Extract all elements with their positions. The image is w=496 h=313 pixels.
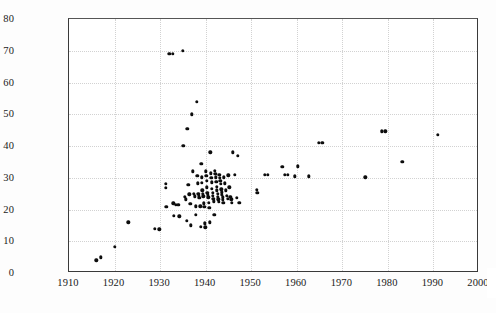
y-tick-label: 70: [0, 44, 14, 55]
data-point: [171, 52, 174, 55]
data-point: [186, 127, 189, 130]
data-point: [95, 259, 98, 262]
data-point: [178, 215, 181, 218]
data-point: [230, 201, 233, 204]
data-point: [185, 219, 188, 222]
data-point: [187, 183, 190, 186]
data-point: [199, 225, 202, 228]
data-point: [212, 200, 215, 203]
data-point: [383, 130, 386, 133]
y-tick-label: 40: [0, 140, 14, 151]
data-point: [194, 213, 197, 216]
data-point: [235, 196, 238, 199]
y-tick-label: 50: [0, 108, 14, 119]
data-point: [181, 49, 184, 52]
data-point: [228, 186, 231, 189]
gridline-horizontal: [69, 146, 477, 147]
plot-area: [69, 19, 477, 271]
y-tick-label: 20: [0, 203, 14, 214]
data-point: [188, 202, 191, 205]
data-point: [193, 194, 196, 197]
data-point: [296, 165, 299, 168]
data-point: [196, 182, 199, 185]
data-point: [217, 200, 220, 203]
scatter-chart-figure: MPH (on roads) 01020304050607080 1910192…: [0, 0, 496, 313]
gridline-vertical: [160, 19, 161, 271]
gridline-horizontal: [69, 114, 477, 115]
data-point: [223, 182, 226, 185]
data-point: [177, 203, 180, 206]
data-point: [210, 187, 213, 190]
data-point: [191, 170, 194, 173]
data-point: [213, 213, 216, 216]
x-tick-label: 1980: [365, 277, 409, 288]
gridline-horizontal: [69, 83, 477, 84]
y-tick-label: 60: [0, 76, 14, 87]
data-point: [233, 173, 236, 176]
gridline-vertical: [433, 19, 434, 271]
gridline-vertical: [115, 19, 116, 271]
data-point: [195, 100, 198, 103]
data-point: [189, 224, 192, 227]
x-tick-label: 1950: [228, 277, 272, 288]
y-tick-label: 0: [0, 267, 14, 278]
data-point: [231, 151, 234, 154]
gridline-vertical: [206, 19, 207, 271]
x-tick-label: 1940: [183, 277, 227, 288]
data-point: [286, 173, 289, 176]
y-tick-label: 80: [0, 13, 14, 24]
data-point: [209, 172, 212, 175]
data-point: [207, 196, 210, 199]
plot-frame: [68, 18, 478, 272]
data-point: [321, 141, 324, 144]
y-tick-label: 10: [0, 235, 14, 246]
right-edge-clip-mask: [487, 268, 496, 298]
data-point: [205, 186, 208, 189]
data-point: [207, 201, 210, 204]
data-point: [266, 173, 269, 176]
data-point: [164, 186, 167, 189]
data-point: [202, 194, 205, 197]
x-tick-label: 1910: [46, 277, 90, 288]
data-point: [209, 176, 212, 179]
gridline-horizontal: [69, 178, 477, 179]
data-point: [200, 181, 203, 184]
x-tick-label: 1970: [319, 277, 363, 288]
x-tick-label: 1960: [274, 277, 318, 288]
data-point: [205, 179, 208, 182]
x-tick-label: 1930: [137, 277, 181, 288]
gridline-vertical: [342, 19, 343, 271]
data-point: [209, 151, 212, 154]
gridline-vertical: [297, 19, 298, 271]
data-point: [238, 201, 241, 204]
data-point: [198, 205, 201, 208]
data-point: [153, 227, 156, 230]
data-point: [182, 144, 185, 147]
x-tick-label: 1990: [410, 277, 454, 288]
data-point: [219, 182, 222, 185]
data-point: [165, 205, 168, 208]
data-point: [172, 214, 175, 217]
data-point: [199, 162, 202, 165]
data-point: [113, 245, 116, 248]
data-point: [99, 255, 102, 258]
data-point: [222, 201, 225, 204]
gridline-horizontal: [69, 51, 477, 52]
data-point: [227, 174, 230, 177]
x-tick-label: 1920: [92, 277, 136, 288]
y-tick-label: 30: [0, 171, 14, 182]
gridline-vertical: [388, 19, 389, 271]
data-point: [224, 189, 227, 192]
data-point: [194, 205, 197, 208]
data-point: [188, 193, 191, 196]
data-point: [210, 180, 213, 183]
gridline-horizontal: [69, 241, 477, 242]
data-point: [127, 220, 130, 223]
data-point: [184, 198, 187, 201]
data-point: [255, 191, 258, 194]
gridline-horizontal: [69, 210, 477, 211]
data-point: [204, 170, 207, 173]
data-point: [190, 113, 193, 116]
data-point: [198, 196, 201, 199]
data-point: [208, 220, 211, 223]
